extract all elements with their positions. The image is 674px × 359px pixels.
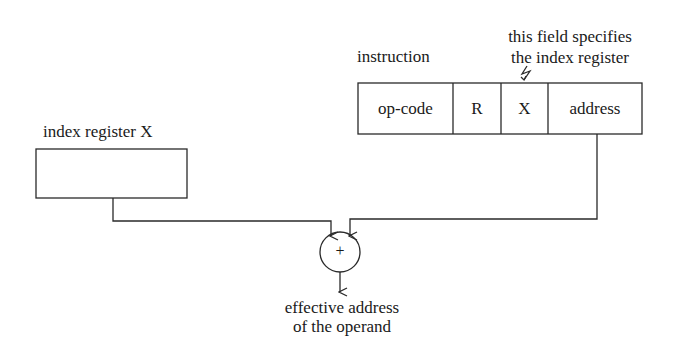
field-opcode-label: op-code [378,99,433,119]
annotation-pointer-icon [522,66,530,80]
annotation-line-1: this field specifies [485,27,655,46]
field-address-label: address [570,99,621,119]
field-r-label: R [471,99,482,119]
output-line-1: effective address [262,298,422,317]
index-register-label: index register X [43,122,153,141]
field-opcode: op-code [358,83,453,134]
output-line-2: of the operand [262,317,422,336]
field-r: R [453,83,501,134]
instruction-label: instruction [357,47,430,66]
field-x: X [501,83,548,134]
address-to-adder-arrow [350,134,597,236]
annotation-line-2: the index register [485,48,655,67]
index-to-adder-arrow [113,198,331,236]
index-register-box [36,149,187,198]
field-x-label: X [518,99,530,119]
annotation-pointer-head-icon [521,76,526,80]
adder-symbol: + [320,241,360,260]
field-address: address [548,83,642,134]
